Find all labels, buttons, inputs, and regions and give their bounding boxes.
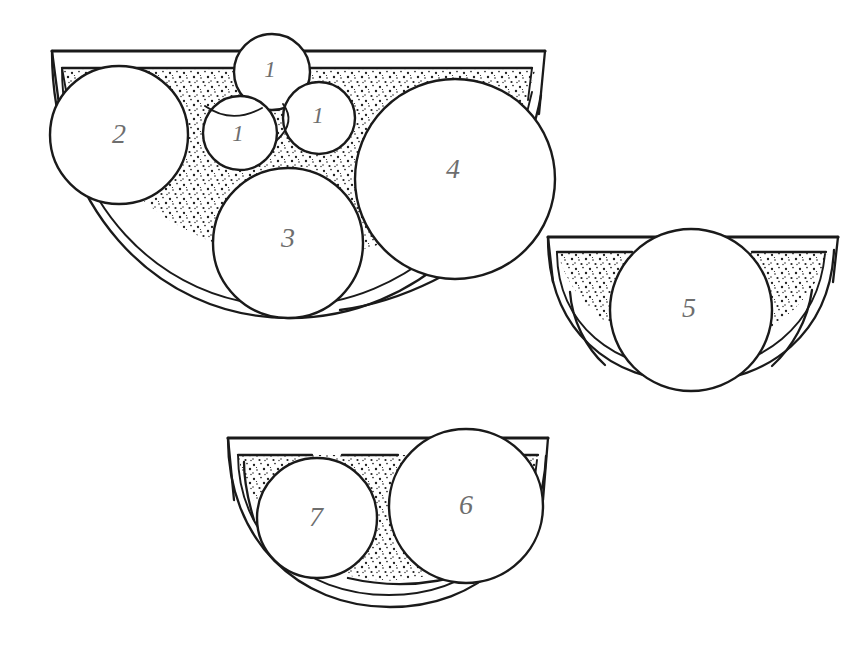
ball-4[interactable]: 4 — [355, 79, 555, 279]
ball-3[interactable]: 3 — [213, 168, 363, 318]
container-right-bowl: 5 — [548, 229, 838, 391]
ball-1-right[interactable]: 1 — [283, 82, 355, 154]
ball-7[interactable]: 7 — [257, 458, 377, 578]
ball-label: 2 — [112, 118, 126, 149]
container-bottom-bowl: 6 7 — [228, 429, 548, 607]
ball-label: 6 — [459, 489, 473, 520]
ball-1-left[interactable]: 1 — [203, 96, 277, 170]
ball-label: 1 — [312, 103, 324, 128]
ball-6[interactable]: 6 — [389, 429, 543, 583]
packing-diagram: 2 4 3 1 1 1 — [0, 0, 868, 657]
ball-label: 1 — [264, 57, 276, 82]
ball-label: 5 — [682, 292, 696, 323]
bottom-bowl-rim-cap-right — [543, 438, 548, 500]
figure-canvas: 2 4 3 1 1 1 — [0, 0, 868, 657]
ball-2[interactable]: 2 — [50, 66, 188, 204]
ball-label: 4 — [446, 153, 460, 184]
ball-label: 7 — [309, 501, 324, 532]
large-bowl-rim-cap-right — [539, 51, 545, 114]
ball-5[interactable]: 5 — [610, 229, 772, 391]
bottom-bowl-rim-cap-left — [228, 438, 234, 500]
ball-label: 1 — [232, 121, 244, 146]
ball-label: 3 — [280, 222, 295, 253]
